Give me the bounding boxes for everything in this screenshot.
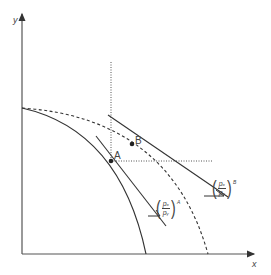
paren-close: ) (227, 178, 232, 198)
ppf-dashed-curve (22, 108, 208, 254)
point-b (130, 142, 135, 147)
numerator: pₓ (162, 200, 171, 209)
fraction: pₓ pᵧ (218, 180, 227, 197)
superscript: B (233, 179, 236, 185)
numerator: pₓ (218, 180, 227, 189)
x-axis-label: x (252, 259, 257, 269)
paren-open: ( (156, 198, 161, 218)
fraction: pₓ pᵧ (162, 200, 171, 217)
ppf-solid-curve (22, 108, 146, 254)
price-ratio-b-label: ( pₓ pᵧ ) B (211, 178, 236, 198)
superscript: A (177, 199, 180, 205)
denominator: pᵧ (219, 189, 225, 197)
denominator: pᵧ (163, 209, 169, 217)
paren-close: ) (171, 198, 176, 218)
y-axis-label: y (13, 15, 18, 25)
point-b-label: B (135, 135, 142, 146)
point-a-label: A (114, 150, 121, 161)
price-ratio-a-label: ( pₓ pᵧ ) A (155, 198, 180, 218)
paren-open: ( (212, 178, 217, 198)
point-a (109, 159, 114, 164)
price-line-b (108, 115, 228, 197)
